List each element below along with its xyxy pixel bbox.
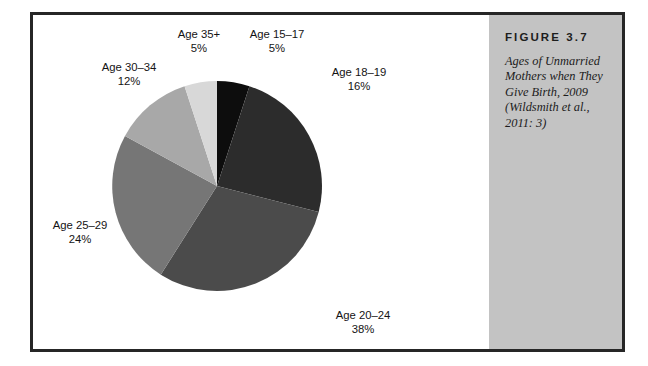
pie-label-age-15-17-name: Age 15–17 xyxy=(250,28,305,40)
pie-chart-area: Age 35+ 5% Age 15–17 5% Age 30–34 12% Ag… xyxy=(33,15,489,349)
pie-label-age-18-19: Age 18–19 16% xyxy=(321,65,397,93)
pie-label-age-25-29: Age 25–29 24% xyxy=(40,218,120,246)
pie-label-age-30-34-name: Age 30–34 xyxy=(102,61,157,73)
pie-label-age-18-19-name: Age 18–19 xyxy=(332,66,387,78)
pie-label-age-30-34: Age 30–34 12% xyxy=(91,60,167,88)
pie-label-age-25-29-pct: 24% xyxy=(40,232,120,246)
pie-label-age-15-17-pct: 5% xyxy=(240,41,314,55)
pie-chart xyxy=(111,80,323,292)
pie-label-age-20-24: Age 20–24 38% xyxy=(323,308,403,336)
pie-label-age-25-29-name: Age 25–29 xyxy=(53,219,108,231)
pie-label-age-20-24-pct: 38% xyxy=(323,322,403,336)
figure-number-heading: FIGURE 3.7 xyxy=(505,31,608,43)
pie-label-age-35-plus: Age 35+ 5% xyxy=(162,27,236,55)
pie-label-age-18-19-pct: 16% xyxy=(321,79,397,93)
pie-label-age-15-17: Age 15–17 5% xyxy=(240,27,314,55)
pie-label-age-20-24-name: Age 20–24 xyxy=(336,309,391,321)
pie-label-age-35-plus-name: Age 35+ xyxy=(178,28,220,40)
figure-caption-panel: FIGURE 3.7 Ages of Unmarried Mothers whe… xyxy=(489,15,622,349)
pie-label-age-35-plus-pct: 5% xyxy=(162,41,236,55)
pie-label-age-30-34-pct: 12% xyxy=(91,74,167,88)
figure-caption-text: Ages of Unmarried Mothers when They Give… xyxy=(505,54,608,131)
figure-frame: Age 35+ 5% Age 15–17 5% Age 30–34 12% Ag… xyxy=(30,12,625,352)
